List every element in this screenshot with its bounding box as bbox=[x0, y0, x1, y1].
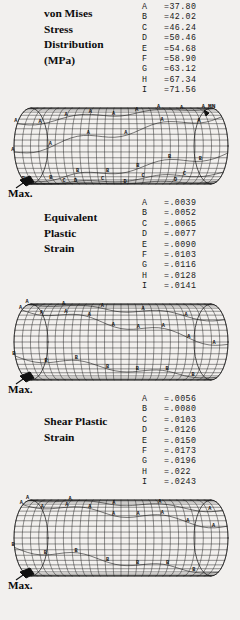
legend-key: E bbox=[142, 44, 164, 54]
legend-row: C=.0103 bbox=[142, 415, 196, 425]
legend-value: =.0173 bbox=[164, 446, 196, 456]
legend-value: =.0243 bbox=[164, 477, 196, 487]
legend-value: =46.24 bbox=[164, 23, 196, 33]
legend-value: =54.68 bbox=[164, 44, 196, 54]
legend-row: D=.0126 bbox=[142, 425, 196, 435]
legend-key: D bbox=[142, 229, 164, 239]
panel-title: Equivalent Plastic Strain bbox=[44, 210, 136, 257]
legend-key: F bbox=[142, 250, 164, 260]
legend-value: =.0141 bbox=[164, 281, 196, 291]
legend-key: A bbox=[142, 198, 164, 208]
legend-row: G=63.12 bbox=[142, 64, 196, 74]
legend-row: B=42.02 bbox=[142, 12, 196, 22]
legend-value: =.0128 bbox=[164, 271, 196, 281]
legend-row: C=46.24 bbox=[142, 23, 196, 33]
legend-value: =.0065 bbox=[164, 219, 196, 229]
max-annotation: Max. bbox=[8, 579, 33, 591]
legend-key: A bbox=[142, 2, 164, 12]
legend-key: A bbox=[142, 394, 164, 404]
legend-row: D=.0077 bbox=[142, 229, 196, 239]
legend-value: =.0103 bbox=[164, 250, 196, 260]
cylinder-mesh: AAAAAAAAABBBBBBBAAAAA bbox=[0, 292, 240, 392]
contour-plot-shear-plastic-strain: AAAAAAAAABBBBBBBAAAAA Max. bbox=[0, 488, 240, 588]
title-line: Stress bbox=[44, 22, 136, 38]
legend-row: I=.0141 bbox=[142, 281, 196, 291]
legend-key: H bbox=[142, 75, 164, 85]
legend-value: =50.46 bbox=[164, 33, 196, 43]
legend-row: H=.0128 bbox=[142, 271, 196, 281]
legend-value: =.0196 bbox=[164, 456, 196, 466]
legend-value: =.0080 bbox=[164, 404, 196, 414]
legend-value: =42.02 bbox=[164, 12, 196, 22]
legend-key: H bbox=[142, 271, 164, 281]
contour-legend: A=.0056 B=.0080 C=.0103 D=.0126 E=.0150 … bbox=[142, 394, 196, 488]
panel-shear-plastic-strain: Shear Plastic Strain A=.0056 B=.0080 C=.… bbox=[0, 392, 240, 588]
legend-row: E=54.68 bbox=[142, 44, 196, 54]
panel-header: von Mises Stress Distribution (MPa) A=37… bbox=[0, 0, 240, 96]
legend-value: =63.12 bbox=[164, 64, 196, 74]
legend-row: G=.0196 bbox=[142, 456, 196, 466]
contour-plot-equivalent-plastic-strain: AAAAAAAAABBBBBBBAAAAA Max. bbox=[0, 292, 240, 392]
legend-row: F=58.90 bbox=[142, 54, 196, 64]
legend-row: A=37.80 bbox=[142, 2, 196, 12]
title-line: Plastic bbox=[44, 226, 136, 242]
legend-value: =.022 bbox=[164, 467, 191, 477]
svg-text:MN: MN bbox=[208, 103, 216, 110]
legend-row: D=50.46 bbox=[142, 33, 196, 43]
title-line: (MPa) bbox=[44, 53, 136, 69]
panel-equivalent-plastic-strain: Equivalent Plastic Strain A=.0039 B=.005… bbox=[0, 196, 240, 392]
cylinder-mesh: AAAAAAAAABBBBBBBAAAAA bbox=[0, 488, 240, 588]
legend-key: B bbox=[142, 404, 164, 414]
legend-key: G bbox=[142, 456, 164, 466]
contour-plot-von-mises: AAAAAAAAAAAAAAABBBBBBBCCCCCDDDDMN Max. bbox=[0, 96, 240, 196]
panel-header: Shear Plastic Strain A=.0056 B=.0080 C=.… bbox=[0, 392, 240, 488]
legend-key: C bbox=[142, 23, 164, 33]
legend-key: I bbox=[142, 477, 164, 487]
legend-key: I bbox=[142, 281, 164, 291]
legend-value: =.0103 bbox=[164, 415, 196, 425]
legend-value: =58.90 bbox=[164, 54, 196, 64]
legend-key: B bbox=[142, 208, 164, 218]
svg-text:B: B bbox=[12, 542, 15, 548]
legend-key: D bbox=[142, 33, 164, 43]
legend-row: A=.0039 bbox=[142, 198, 196, 208]
legend-row: F=.0173 bbox=[142, 446, 196, 456]
legend-row: F=.0103 bbox=[142, 250, 196, 260]
svg-text:B: B bbox=[12, 351, 15, 357]
legend-row: H=.022 bbox=[142, 467, 196, 477]
legend-row: E=.0090 bbox=[142, 240, 196, 250]
cylinder-mesh: AAAAAAAAAAAAAAABBBBBBBCCCCCDDDDMN bbox=[0, 96, 240, 196]
title-line: Equivalent bbox=[44, 210, 136, 226]
contour-legend: A=.0039 B=.0052 C=.0065 D=.0077 E=.0090 … bbox=[142, 198, 196, 292]
legend-value: =71.56 bbox=[164, 85, 196, 95]
legend-row: C=.0065 bbox=[142, 219, 196, 229]
legend-key: F bbox=[142, 54, 164, 64]
panel-title: Shear Plastic Strain bbox=[44, 414, 136, 445]
legend-key: H bbox=[142, 467, 164, 477]
legend-row: E=.0150 bbox=[142, 436, 196, 446]
legend-key: G bbox=[142, 64, 164, 74]
legend-row: G=.0116 bbox=[142, 260, 196, 270]
legend-key: F bbox=[142, 446, 164, 456]
legend-value: =.0126 bbox=[164, 425, 196, 435]
legend-value: =.0039 bbox=[164, 198, 196, 208]
legend-key: E bbox=[142, 436, 164, 446]
panel-von-mises: von Mises Stress Distribution (MPa) A=37… bbox=[0, 0, 240, 196]
panel-header: Equivalent Plastic Strain A=.0039 B=.005… bbox=[0, 196, 240, 292]
legend-value: =.0056 bbox=[164, 394, 196, 404]
legend-row: H=67.34 bbox=[142, 75, 196, 85]
legend-row: B=.0080 bbox=[142, 404, 196, 414]
legend-value: =37.80 bbox=[164, 2, 196, 12]
title-line: Strain bbox=[44, 430, 136, 446]
legend-key: D bbox=[142, 425, 164, 435]
legend-row: I=71.56 bbox=[142, 85, 196, 95]
legend-value: =.0077 bbox=[164, 229, 196, 239]
legend-value: =.0052 bbox=[164, 208, 196, 218]
legend-value: =.0090 bbox=[164, 240, 196, 250]
contour-legend: A=37.80 B=42.02 C=46.24 D=50.46 E=54.68 … bbox=[142, 2, 196, 96]
legend-key: C bbox=[142, 219, 164, 229]
legend-key: G bbox=[142, 260, 164, 270]
title-line: Distribution bbox=[44, 37, 136, 53]
legend-row: I=.0243 bbox=[142, 477, 196, 487]
title-line: Strain bbox=[44, 241, 136, 257]
